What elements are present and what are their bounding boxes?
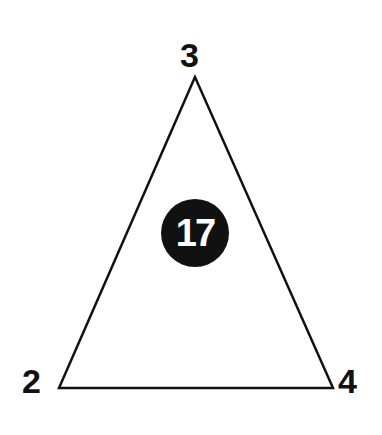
vertex-label-bottom-right: 4 [338,364,357,398]
vertex-label-top: 3 [180,38,199,72]
center-value: 17 [161,199,229,267]
vertex-label-bottom-left: 2 [22,364,41,398]
triangle-diagram: 3 2 4 17 [0,0,382,435]
